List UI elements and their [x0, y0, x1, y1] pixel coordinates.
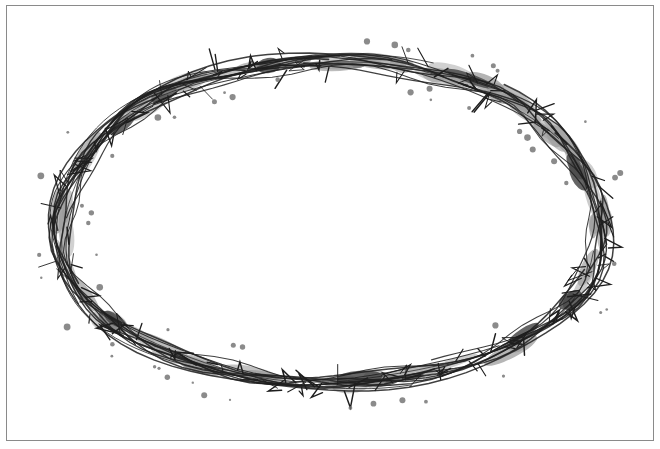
ink-splatter	[37, 38, 623, 409]
crown-of-thorns-illustration	[0, 0, 660, 449]
